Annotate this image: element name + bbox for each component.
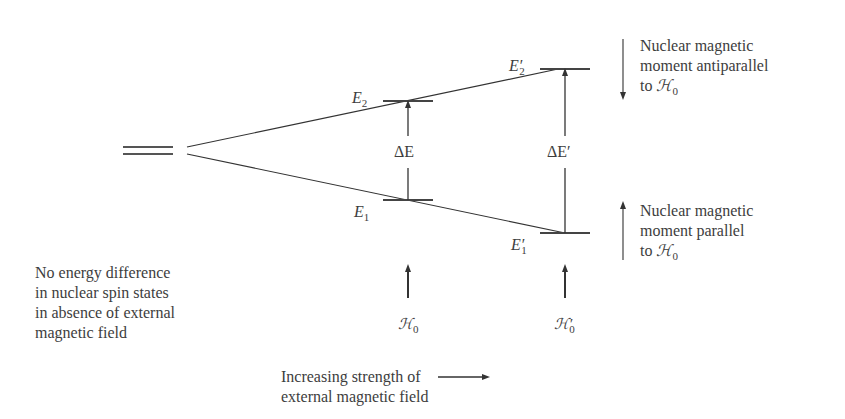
label-field-h0: ℋ0: [398, 314, 419, 339]
label-delta-e-prime: ΔE′: [547, 142, 571, 162]
label-e1: E1: [354, 202, 369, 227]
antiparallel-annotation: Nuclear magnetic moment antiparallel to …: [640, 36, 768, 96]
lower-splitting-line: [187, 154, 565, 233]
parallel-annotation: Nuclear magnetic moment parallel to ℋ0: [640, 201, 753, 261]
label-e2: E2: [352, 88, 367, 113]
label-delta-e: ΔE: [394, 142, 414, 162]
label-e1-prime: E′1: [511, 235, 527, 260]
upper-splitting-line: [187, 69, 558, 147]
label-field-h0-prime: ℋ′0: [554, 314, 575, 339]
increasing-field-annotation: Increasing strength of external magnetic…: [281, 367, 428, 407]
degenerate-level: [123, 147, 173, 154]
no-field-annotation: No energy difference in nuclear spin sta…: [35, 263, 175, 343]
label-e2-prime: E′2: [509, 56, 525, 81]
